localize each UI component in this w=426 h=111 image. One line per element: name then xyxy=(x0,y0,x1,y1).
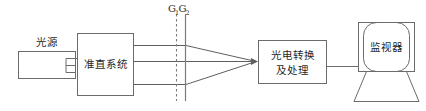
light-source-label: 光源 xyxy=(36,36,58,48)
collimation-system-label: 准直系统 xyxy=(84,58,128,70)
photoelectric-label-line1: 光电转换 xyxy=(271,49,315,61)
photoelectric-conversion-box xyxy=(259,41,327,84)
photoelectric-label-line2: 及处理 xyxy=(276,64,309,76)
grating-pair xyxy=(177,14,186,101)
beam-bundle xyxy=(134,46,259,85)
beam-top xyxy=(134,46,257,62)
grating-labels: G 1 G 2 xyxy=(168,3,190,17)
diagram-canvas: 光源 准直系统 光电转换 及处理 监视器 G 1 G 2 xyxy=(0,0,426,111)
connector-source-to-collimator xyxy=(66,55,77,76)
optical-system-diagram: 光源 准直系统 光电转换 及处理 监视器 G 1 G 2 xyxy=(0,0,426,111)
block-monitor xyxy=(354,23,419,102)
beam-bottom xyxy=(134,62,257,85)
monitor-label: 监视器 xyxy=(370,41,403,53)
grating-g2-sublabel: 2 xyxy=(186,9,190,17)
block-photoelectric-conversion xyxy=(259,41,327,84)
beam-arrowhead-icon xyxy=(251,58,258,65)
monitor-stand xyxy=(354,72,419,102)
